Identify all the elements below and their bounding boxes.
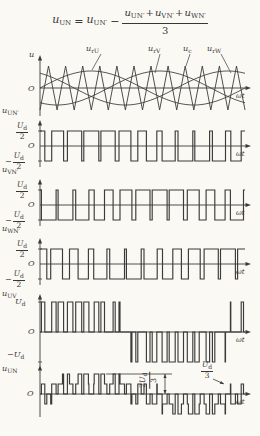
annotation-2ud3: 2Ud3: [139, 372, 158, 389]
panel4-neg-level: −Ud2: [5, 270, 25, 289]
panel3-xlabel: ωt: [236, 209, 245, 218]
panel3-origin: O: [28, 200, 35, 209]
formula-lhs: uUN: [52, 13, 71, 30]
waveform-canvas: [0, 0, 260, 436]
panel6-ylabel: uUN: [2, 364, 17, 375]
panel5-origin: O: [28, 327, 35, 336]
panel1-xlabel: ωt: [236, 92, 245, 101]
minus-sign: −: [110, 15, 119, 28]
formula: uUN = uUN′ − uUN′+uVN′+uWN′ 3: [0, 6, 260, 37]
panel4-pos-level: Ud2: [16, 240, 28, 259]
panel6-origin: O: [27, 389, 34, 398]
panel5-xlabel: ωt: [236, 336, 245, 345]
label-u-rV: urV: [148, 44, 160, 55]
panel1-ylabel: u: [29, 50, 34, 61]
panel5-neg-level: −Ud: [7, 350, 24, 361]
panel1-origin: O: [28, 84, 35, 93]
panel6-xlabel: ωt: [236, 398, 245, 407]
panel3-pos-level: Ud2: [16, 181, 28, 200]
label-u-rW: urW: [207, 44, 221, 55]
panel2-xlabel: ωt: [236, 150, 245, 159]
panel5-pos-level: Ud: [15, 297, 26, 308]
formula-term1: uUN′: [86, 13, 107, 30]
panel2-pos-level: Ud2: [16, 122, 28, 141]
panel4-xlabel: ωt: [236, 268, 245, 277]
label-u-c: uc: [183, 44, 192, 55]
label-u-rU: urU: [86, 44, 99, 55]
panel3-ylabel: uVN′: [2, 165, 18, 176]
panel2-ylabel: uUN′: [2, 106, 19, 117]
annotation-ud3: Ud3: [201, 361, 213, 380]
equals-sign: =: [74, 15, 83, 28]
formula-fraction: uUN′+uVN′+uWN′ 3: [122, 6, 207, 37]
panel2-origin: O: [28, 141, 35, 150]
panel4-origin: O: [28, 259, 35, 268]
figure-root: uUN = uUN′ − uUN′+uVN′+uWN′ 3 urU urV uc…: [0, 0, 260, 436]
panel4-ylabel: uWN′: [2, 224, 20, 235]
